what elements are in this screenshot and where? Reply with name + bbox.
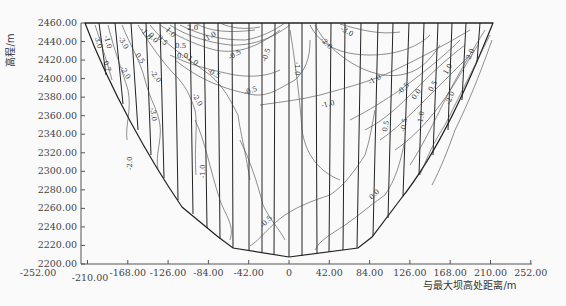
y-axis-title: 高程/m: [4, 33, 16, 66]
y-tick-label: 2320.00: [38, 147, 77, 158]
x-tick-label: 210.00: [474, 267, 507, 278]
x-axis-title: 与最大坝高处距离/m: [423, 279, 516, 291]
contour-label: -1.0: [199, 165, 207, 179]
contour-label: 0.5: [427, 79, 439, 93]
x-tick-label: -126.00: [150, 267, 186, 278]
contour-label: -2.0: [444, 90, 456, 105]
x-tick-label: 168.00: [434, 267, 467, 278]
contour-label: 0.7: [101, 60, 112, 73]
x-tick-label: -168.00: [110, 267, 146, 278]
contour-label: 2.0: [465, 47, 477, 60]
y-tick-label: 2260.00: [38, 202, 77, 213]
contour-label: 0.5: [381, 120, 391, 132]
x-tick-label: 0: [286, 267, 292, 278]
y-tick-label: 2420.00: [38, 54, 77, 65]
contour-label: -3.0: [339, 25, 355, 39]
contour-label: -3.0: [116, 35, 130, 51]
contour-label: -2.0: [148, 69, 162, 85]
dam-joints: [99, 23, 480, 257]
contour-chart: 2460.002440.002420.002400.002380.002360.…: [0, 0, 566, 306]
x-tick-label: 84.00: [356, 267, 383, 278]
x-tick-label: 252.00: [514, 267, 547, 278]
contour-label: 1.0: [442, 62, 454, 76]
x-tick-label: 126.00: [393, 267, 426, 278]
y-tick-label: 2360.00: [38, 110, 77, 121]
x-tick-label: -210.00: [72, 272, 108, 283]
contour-label: -0.5: [259, 214, 274, 229]
x-tick-label: -84.00: [193, 267, 223, 278]
contour-label: 0.5: [175, 42, 186, 50]
contour-label: -1.0: [102, 34, 113, 49]
y-tick-label: 2340.00: [38, 128, 77, 139]
y-axis-ticks: 2460.002440.002420.002400.002380.002360.…: [38, 17, 85, 269]
x-tick-label: -252.00: [20, 267, 56, 278]
contour-label: 0.5: [133, 52, 146, 66]
contour-labels: 3.0 -1.0 0.7 -3.0 -2.0 0.5 -2.0 -1.0 0.0…: [93, 24, 476, 229]
y-tick-label: 2400.00: [38, 73, 77, 84]
contour-label: -2.0: [126, 157, 134, 171]
contour-label: -1.0: [293, 62, 301, 76]
contour-label: -2.0: [319, 36, 334, 51]
y-tick-label: 2220.00: [38, 239, 77, 250]
contour-lines: [95, 23, 492, 250]
y-tick-label: 2280.00: [38, 184, 77, 195]
y-tick-label: 2240.00: [38, 221, 77, 232]
x-tick-label: 42.00: [316, 267, 343, 278]
contour-label: 0.0: [177, 52, 188, 60]
contour-label: -1.0: [367, 73, 383, 87]
contour-label: -0.5: [399, 118, 409, 133]
y-tick-label: 2440.00: [38, 36, 77, 47]
contour-label: 2.0: [187, 24, 198, 32]
y-tick-label: 2300.00: [38, 165, 77, 176]
y-tick-label: 2460.00: [38, 17, 77, 28]
contour-label: -2.0: [190, 92, 204, 108]
x-tick-label: -42.00: [233, 267, 263, 278]
contour-label: -1.0: [320, 99, 335, 110]
y-tick-label: 2380.00: [38, 91, 77, 102]
